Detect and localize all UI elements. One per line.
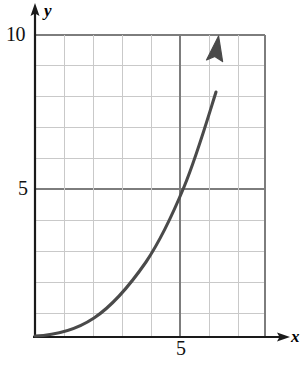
plot-area bbox=[0, 0, 306, 367]
grid-horizontal-major bbox=[35, 35, 265, 189]
y-axis-label: y bbox=[44, 2, 52, 19]
grid-vertical-major bbox=[180, 35, 265, 337]
grid-vertical-minor bbox=[64, 35, 238, 337]
data-curve bbox=[35, 36, 223, 336]
x-tick-label-5: 5 bbox=[176, 338, 186, 358]
y-axis bbox=[31, 3, 40, 337]
x-axis-label: x bbox=[291, 328, 300, 345]
y-tick-label-5: 5 bbox=[18, 178, 28, 198]
curve-path bbox=[35, 92, 216, 336]
x-axis bbox=[33, 333, 290, 342]
coordinate-graph: y x 10 5 5 bbox=[0, 0, 306, 367]
y-tick-label-10: 10 bbox=[6, 24, 25, 44]
